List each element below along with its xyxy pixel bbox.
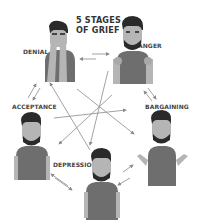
arrow-acceptance-denial: [28, 84, 36, 98]
arrow-anger-depression: [90, 71, 108, 145]
figure-acceptance: [14, 112, 50, 180]
arrow-acceptance-depression: [55, 178, 72, 190]
figure-denial: [45, 21, 75, 82]
diagram-graphics: [0, 0, 205, 223]
arrow-depression-bargaining: [123, 165, 133, 172]
arrow-denial-acceptance: [33, 88, 40, 100]
figure-depression: [84, 148, 120, 220]
arrow-acceptance-bargaining: [54, 110, 126, 118]
arrow-denial-bargaining: [77, 89, 134, 134]
figure-bargaining: [137, 110, 188, 186]
arrow-bargaining-depression: [118, 178, 130, 185]
arrow-depression-acceptance: [51, 174, 68, 186]
arrow-anger-acceptance: [59, 95, 112, 144]
figure-anger: [113, 16, 153, 84]
